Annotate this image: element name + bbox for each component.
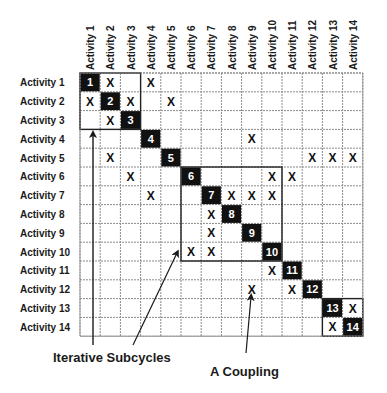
dependency-mark: X — [207, 245, 215, 259]
column-label: Activity 2 — [105, 25, 116, 70]
row-label: Activity 1 — [20, 77, 65, 88]
row-label: Activity 14 — [20, 322, 70, 333]
dependency-mark: X — [248, 189, 256, 203]
column-label: Activity 4 — [146, 25, 157, 70]
diagonal-label: 11 — [286, 264, 298, 276]
arrow-coupling — [246, 297, 251, 353]
column-label: Activity 8 — [227, 25, 238, 70]
column-label: Activity 11 — [287, 20, 298, 70]
dependency-mark: X — [167, 95, 175, 109]
row-label: Activity 12 — [20, 284, 70, 295]
diagonal-label: 8 — [228, 208, 234, 220]
column-label: Activity 7 — [206, 25, 217, 70]
column-label: Activity 13 — [328, 20, 339, 70]
row-label: Activity 6 — [20, 171, 65, 182]
row-label: Activity 10 — [20, 247, 70, 258]
row-label: Activity 7 — [20, 190, 65, 201]
dependency-mark: X — [308, 151, 316, 165]
column-label: Activity 12 — [307, 20, 318, 70]
diagonal-label: 13 — [326, 302, 338, 314]
column-label: Activity 14 — [348, 20, 359, 70]
dependency-mark: X — [288, 170, 296, 184]
column-labels: Activity 1Activity 2Activity 3Activity 4… — [85, 20, 359, 70]
dependency-mark: X — [106, 151, 114, 165]
row-label: Activity 2 — [20, 96, 65, 107]
dependency-mark: X — [268, 170, 276, 184]
dependency-mark: X — [268, 264, 276, 278]
dependency-mark: X — [147, 189, 155, 203]
column-label: Activity 3 — [126, 25, 137, 70]
column-label: Activity 9 — [247, 25, 258, 70]
dependency-mark: X — [328, 151, 336, 165]
diagonal-label: 2 — [107, 95, 113, 107]
diagonal-label: 6 — [188, 170, 194, 182]
row-labels: Activity 1Activity 2Activity 3Activity 4… — [20, 77, 70, 332]
diagonal-label: 12 — [306, 283, 318, 295]
diagonal-label: 3 — [127, 114, 133, 126]
dependency-mark: X — [349, 302, 357, 316]
diagonal-label: 4 — [148, 133, 155, 145]
dependency-mark: X — [248, 132, 256, 146]
diagonal-label: 14 — [347, 321, 360, 333]
dependency-mark: X — [248, 283, 256, 297]
annotation-iterative-subcycles: Iterative Subcycles — [53, 350, 171, 365]
row-label: Activity 11 — [20, 265, 70, 276]
dependency-mark: X — [227, 189, 235, 203]
diagonal-label: 10 — [266, 246, 278, 258]
dependency-mark: X — [106, 76, 114, 90]
row-label: Activity 9 — [20, 228, 65, 239]
diagonal-label: 1 — [87, 76, 93, 88]
dependency-mark: X — [126, 170, 134, 184]
row-label: Activity 3 — [20, 115, 65, 126]
dependency-mark: X — [106, 114, 114, 128]
column-label: Activity 6 — [186, 25, 197, 70]
annotation-coupling: A Coupling — [210, 364, 279, 379]
row-label: Activity 13 — [20, 303, 70, 314]
dependency-mark: X — [86, 95, 94, 109]
column-label: Activity 10 — [267, 20, 278, 70]
dependency-mark: X — [126, 95, 134, 109]
dependency-mark: X — [187, 245, 195, 259]
diagonal-label: 7 — [208, 189, 214, 201]
row-label: Activity 4 — [20, 134, 65, 145]
column-label: Activity 5 — [166, 25, 177, 70]
dependency-mark: X — [207, 226, 215, 240]
dependency-mark: X — [288, 283, 296, 297]
dsm-diagram: Activity 1Activity 2Activity 3Activity 4… — [0, 0, 387, 393]
dependency-mark: X — [328, 320, 336, 334]
dependency-mark: X — [349, 151, 357, 165]
diagonal-label: 5 — [168, 152, 174, 164]
row-label: Activity 8 — [20, 209, 65, 220]
row-label: Activity 5 — [20, 153, 65, 164]
dependency-mark: X — [147, 76, 155, 90]
dependency-mark: X — [268, 189, 276, 203]
diagonal-label: 9 — [249, 227, 255, 239]
dependency-mark: X — [207, 208, 215, 222]
column-label: Activity 1 — [85, 25, 96, 70]
